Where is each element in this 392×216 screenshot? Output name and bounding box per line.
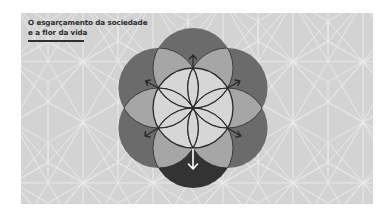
illustration-panel: O esgarçamento da sociedade e a flor da … — [21, 13, 373, 204]
flower-of-life-diagram — [21, 13, 373, 204]
